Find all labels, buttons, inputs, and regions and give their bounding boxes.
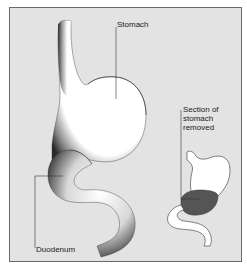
section-removed-label: Section of stomach removed xyxy=(183,105,219,132)
section-removed-label-line1: Section of xyxy=(183,105,219,114)
removed-section xyxy=(181,190,218,215)
post-surgery-stomach-illustration xyxy=(168,151,231,246)
section-removed-label-line3: removed xyxy=(183,123,219,132)
stomach-diagram xyxy=(0,0,247,271)
stomach-label: Stomach xyxy=(117,20,149,29)
stomach-illustration xyxy=(48,20,146,257)
section-removed-label-line2: stomach xyxy=(183,114,219,123)
duodenum-label: Duodenum xyxy=(36,245,75,254)
